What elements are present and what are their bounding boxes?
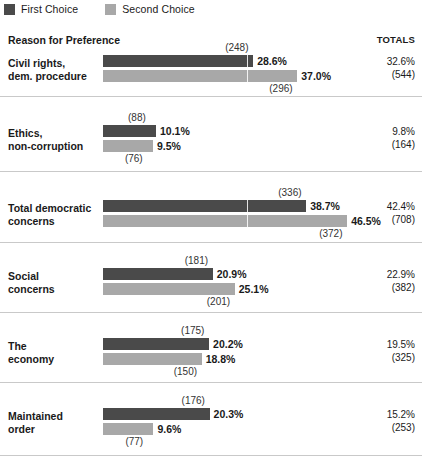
totals-count: (164) bbox=[392, 138, 415, 151]
row-label-line1: The bbox=[8, 340, 54, 353]
chart-row-social-concerns: Socialconcerns20.9%25.1%(181)(201)22.9%(… bbox=[0, 268, 422, 314]
bar-second-choice[interactable] bbox=[103, 283, 235, 295]
totals-count: (325) bbox=[387, 351, 415, 364]
count-label-second-choice: (296) bbox=[269, 83, 292, 94]
count-label-first-choice: (176) bbox=[182, 395, 205, 406]
row-label: Civil rights,dem. procedure bbox=[8, 57, 87, 82]
value-label-first-choice: 20.3% bbox=[214, 408, 244, 420]
row-label: Theeconomy bbox=[8, 340, 54, 365]
row-label-line1: Maintained bbox=[8, 410, 63, 423]
value-label-first-choice: 28.6% bbox=[257, 55, 287, 67]
totals-cell: 9.8%(164) bbox=[392, 125, 415, 151]
row-label-line2: concerns bbox=[8, 215, 91, 228]
value-label-second-choice: 9.5% bbox=[157, 140, 181, 152]
count-label-first-choice: (248) bbox=[225, 42, 248, 53]
row-label-line2: concerns bbox=[8, 283, 55, 296]
count-label-first-choice: (181) bbox=[185, 255, 208, 266]
totals-count: (708) bbox=[387, 213, 415, 226]
row-separator bbox=[0, 242, 422, 243]
chart-row-ethics-non-corruption: Ethics,non-corruption10.1%9.5%(88)(76)9.… bbox=[0, 125, 422, 171]
bar-second-choice[interactable] bbox=[103, 423, 153, 435]
value-label-second-choice: 9.6% bbox=[157, 423, 181, 435]
row-label-line1: Civil rights, bbox=[8, 57, 87, 70]
totals-cell: 32.6%(544) bbox=[387, 55, 415, 81]
row-label: Total democraticconcerns bbox=[8, 202, 91, 227]
totals-cell: 19.5%(325) bbox=[387, 338, 415, 364]
bar-first-choice[interactable] bbox=[103, 200, 306, 212]
chart-legend: First Choice Second Choice bbox=[4, 3, 222, 15]
value-label-first-choice: 20.2% bbox=[213, 338, 243, 350]
gridline-mark bbox=[247, 200, 248, 227]
column-header-reason: Reason for Preference bbox=[8, 34, 120, 46]
totals-cell: 15.2%(253) bbox=[387, 408, 415, 434]
row-label-line1: Social bbox=[8, 270, 55, 283]
row-label: Socialconcerns bbox=[8, 270, 55, 295]
totals-count: (544) bbox=[387, 68, 415, 81]
row-label-line2: order bbox=[8, 423, 63, 436]
totals-count: (253) bbox=[387, 421, 415, 434]
chart-row-the-economy: Theeconomy20.2%18.8%(175)(150)19.5%(325) bbox=[0, 338, 422, 384]
value-label-first-choice: 20.9% bbox=[217, 268, 247, 280]
count-label-first-choice: (88) bbox=[128, 112, 146, 123]
bar-second-choice[interactable] bbox=[103, 353, 202, 365]
bar-first-choice[interactable] bbox=[103, 55, 253, 67]
legend-label-second-choice: Second Choice bbox=[122, 3, 195, 15]
row-label-line1: Total democratic bbox=[8, 202, 91, 215]
row-separator bbox=[0, 382, 422, 383]
row-label-line2: economy bbox=[8, 353, 54, 366]
value-label-second-choice: 25.1% bbox=[239, 283, 269, 295]
legend-label-first-choice: First Choice bbox=[21, 3, 78, 15]
count-label-second-choice: (76) bbox=[125, 153, 143, 164]
bar-first-choice[interactable] bbox=[103, 268, 213, 280]
row-separator bbox=[0, 455, 422, 456]
bar-second-choice[interactable] bbox=[103, 215, 347, 227]
bar-second-choice[interactable] bbox=[103, 70, 297, 82]
row-label: Maintainedorder bbox=[8, 410, 63, 435]
value-label-first-choice: 38.7% bbox=[310, 200, 340, 212]
bar-first-choice[interactable] bbox=[103, 338, 209, 350]
bar-first-choice[interactable] bbox=[103, 125, 156, 137]
first-choice-swatch bbox=[4, 4, 15, 15]
count-label-first-choice: (336) bbox=[278, 187, 301, 198]
count-label-first-choice: (175) bbox=[181, 325, 204, 336]
bar-second-choice[interactable] bbox=[103, 140, 153, 152]
count-label-second-choice: (77) bbox=[125, 436, 143, 447]
row-separator bbox=[0, 312, 422, 313]
column-header-totals: TOTALS bbox=[377, 34, 415, 45]
row-separator bbox=[0, 171, 422, 172]
totals-cell: 42.4%(708) bbox=[387, 200, 415, 226]
row-separator bbox=[0, 96, 422, 97]
second-choice-swatch bbox=[105, 4, 116, 15]
totals-percent: 42.4% bbox=[387, 200, 415, 213]
table-header: Reason for Preference TOTALS bbox=[0, 34, 422, 50]
value-label-first-choice: 10.1% bbox=[160, 125, 190, 137]
totals-percent: 32.6% bbox=[387, 55, 415, 68]
count-label-second-choice: (372) bbox=[319, 228, 342, 239]
value-label-second-choice: 46.5% bbox=[351, 215, 381, 227]
legend-item-second-choice: Second Choice bbox=[105, 3, 195, 15]
count-label-second-choice: (201) bbox=[207, 296, 230, 307]
chart-row-maintained-order: Maintainedorder20.3%9.6%(176)(77)15.2%(2… bbox=[0, 408, 422, 454]
count-label-second-choice: (150) bbox=[174, 366, 197, 377]
totals-count: (382) bbox=[387, 281, 415, 294]
bar-first-choice[interactable] bbox=[103, 408, 210, 420]
value-label-second-choice: 37.0% bbox=[301, 70, 331, 82]
totals-percent: 19.5% bbox=[387, 338, 415, 351]
totals-percent: 15.2% bbox=[387, 408, 415, 421]
totals-cell: 22.9%(382) bbox=[387, 268, 415, 294]
gridline-mark bbox=[247, 55, 248, 82]
value-label-second-choice: 18.8% bbox=[206, 353, 236, 365]
row-label-line2: dem. procedure bbox=[8, 70, 87, 83]
row-label: Ethics,non-corruption bbox=[8, 127, 83, 152]
totals-percent: 22.9% bbox=[387, 268, 415, 281]
chart-row-civil-rights-dem-procedure: Civil rights,dem. procedure28.6%37.0%(24… bbox=[0, 55, 422, 101]
row-label-line2: non-corruption bbox=[8, 140, 83, 153]
chart-row-total-democratic-concerns: Total democraticconcerns38.7%46.5%(336)(… bbox=[0, 200, 422, 246]
chart-root: First Choice Second Choice Reason for Pr… bbox=[0, 0, 422, 466]
row-label-line1: Ethics, bbox=[8, 127, 83, 140]
legend-item-first-choice: First Choice bbox=[4, 3, 78, 15]
totals-percent: 9.8% bbox=[392, 125, 415, 138]
